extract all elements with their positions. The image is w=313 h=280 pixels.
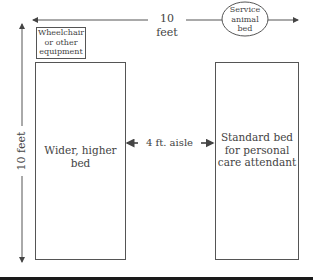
service-animal-label: Service animal bed	[229, 5, 261, 34]
right-bed-label: Standard bed for personal care attendant	[216, 131, 298, 169]
aisle-label: 4 ft. aisle	[138, 136, 201, 149]
left-bed-label: Wider, higher bed	[36, 144, 125, 170]
equipment-label: Wheelchair or other equipment	[37, 28, 85, 57]
height-label: 10 feet	[15, 126, 29, 176]
width-label: 10 feet	[148, 12, 186, 40]
